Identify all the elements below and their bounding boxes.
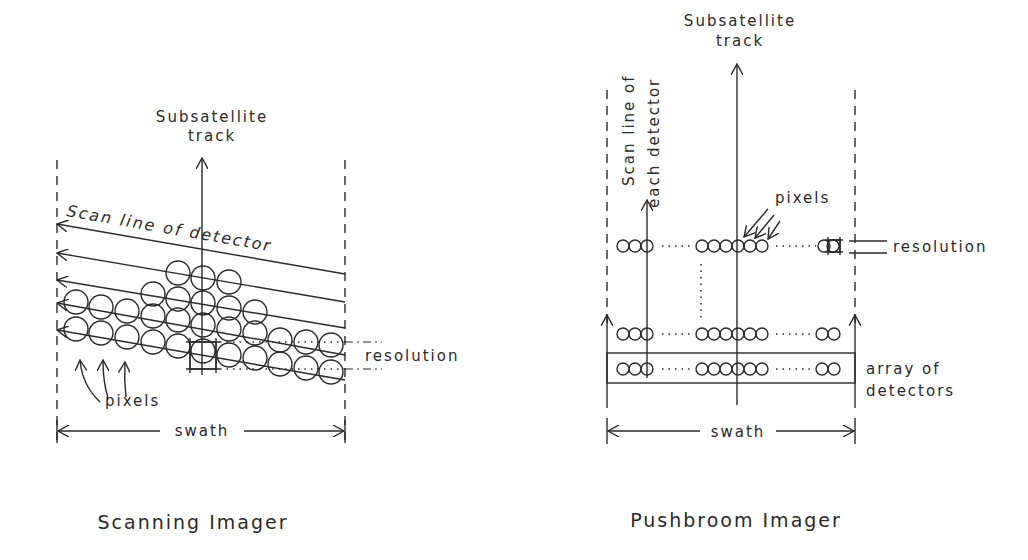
pushbroom-title: Pushbroom Imager <box>630 509 842 531</box>
pushbroom-scan-label-1: Scan line of <box>620 74 638 186</box>
pushbroom-resolution-label: resolution <box>893 238 987 256</box>
pushbroom-scan-label-2: each detector <box>645 78 663 208</box>
scanning-pixels-label: pixels <box>105 392 160 410</box>
pushbroom-pixels <box>617 240 840 375</box>
diagram-canvas: Subsatellite track Scan line of detector <box>0 0 1028 560</box>
detector-array-box <box>607 353 855 383</box>
pushbroom-array-label-1: array of <box>866 360 941 378</box>
scanning-resolution-label: resolution <box>365 347 459 365</box>
pushbroom-imager: Subsatellite track Scan line of each det… <box>607 12 987 531</box>
pushbroom-track-label-1: Subsatellite <box>684 12 796 30</box>
pushbroom-swath-label: swath <box>711 423 766 441</box>
scanning-scan-label: Scan line of detector <box>65 201 273 255</box>
scanning-track-label-2: track <box>188 127 236 145</box>
scanning-title: Scanning Imager <box>98 511 289 533</box>
scanning-track-label-1: Subsatellite <box>156 108 268 126</box>
scan-line-4 <box>57 303 345 355</box>
scanning-pixels <box>64 261 343 384</box>
pushbroom-pixels-label: pixels <box>775 189 830 207</box>
scanning-imager: Subsatellite track Scan line of detector <box>57 108 459 533</box>
scanning-swath-label: swath <box>175 422 230 440</box>
pushbroom-track-label-2: track <box>716 32 764 50</box>
pushbroom-array-label-2: detectors <box>866 382 955 400</box>
